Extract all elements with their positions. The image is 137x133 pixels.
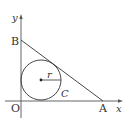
point-b-label: B [11, 35, 19, 48]
y-axis-arrow-icon [19, 14, 22, 19]
point-a-label: A [98, 102, 108, 115]
diagram-canvas: y B O A x C r [0, 0, 137, 133]
circle-c-label: C [61, 88, 69, 99]
y-axis-label: y [11, 12, 18, 23]
x-axis-label: x [116, 103, 122, 114]
origin-label: O [11, 102, 20, 115]
radius-label: r [47, 69, 53, 80]
